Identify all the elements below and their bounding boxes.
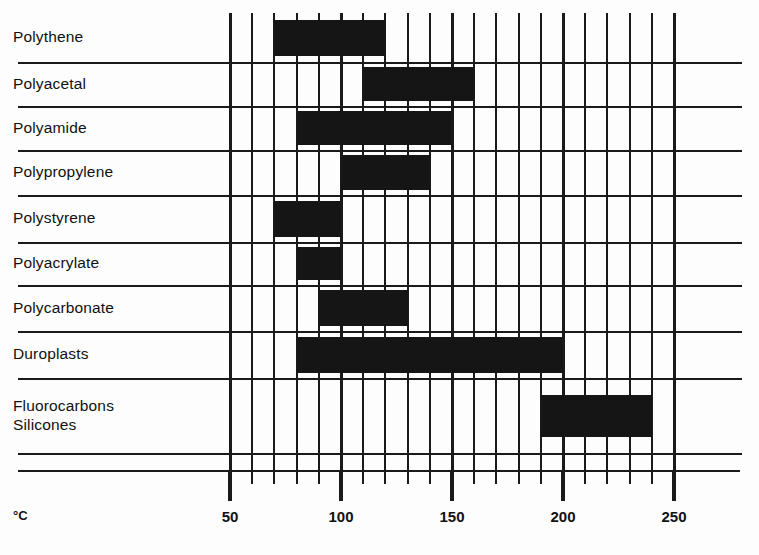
bar-3 xyxy=(297,111,452,145)
tick-90 xyxy=(318,471,320,484)
tick-230 xyxy=(629,471,631,484)
row-separator-2 xyxy=(18,106,742,108)
tick-180 xyxy=(518,471,520,484)
tick-150 xyxy=(450,471,454,501)
tick-label-200: 200 xyxy=(550,508,575,525)
tick-130 xyxy=(407,471,409,484)
tick-110 xyxy=(362,471,364,484)
tick-label-150: 150 xyxy=(439,508,464,525)
row-label-8: Duroplasts xyxy=(13,344,89,363)
bar-8 xyxy=(297,337,563,373)
tick-label-100: 100 xyxy=(328,508,353,525)
row-separator-4 xyxy=(18,195,742,197)
tick-label-50: 50 xyxy=(222,508,239,525)
gridline-50 xyxy=(229,13,232,500)
row-label-9: Fluorocarbons Silicones xyxy=(13,396,114,434)
axis-unit-label: °C xyxy=(13,508,28,523)
temperature-range-chart: PolythenePolyacetalPolyamidePolypropylen… xyxy=(0,0,759,555)
tick-200 xyxy=(561,471,565,501)
tick-170 xyxy=(495,471,497,484)
tick-120 xyxy=(384,471,386,484)
tick-160 xyxy=(473,471,475,484)
row-label-2: Polyacetal xyxy=(13,74,86,93)
tick-240 xyxy=(651,471,653,484)
tick-label-250: 250 xyxy=(661,508,686,525)
tick-140 xyxy=(429,471,431,484)
tick-100 xyxy=(339,471,343,501)
tick-190 xyxy=(540,471,542,484)
row-label-4: Polypropylene xyxy=(13,162,113,181)
row-separator-5 xyxy=(18,242,742,244)
tick-70 xyxy=(273,471,275,484)
row-label-6: Polyacrylate xyxy=(13,253,99,272)
bar-6 xyxy=(297,247,341,280)
row-separator-6 xyxy=(18,285,742,287)
row-label-1: Polythene xyxy=(13,27,83,46)
row-label-3: Polyamide xyxy=(13,118,87,137)
bar-5 xyxy=(274,201,341,237)
row-separator-3 xyxy=(18,150,742,152)
tick-50 xyxy=(228,471,232,501)
bar-2 xyxy=(363,67,474,101)
row-separator-7 xyxy=(18,331,742,333)
row-label-7: Polycarbonate xyxy=(13,298,114,317)
bar-7 xyxy=(319,290,408,326)
row-separator-1 xyxy=(18,62,742,64)
row-label-5: Polystyrene xyxy=(13,208,96,227)
tick-80 xyxy=(296,471,298,484)
tick-250 xyxy=(672,471,676,501)
row-separator-9 xyxy=(18,453,742,455)
tick-60 xyxy=(251,471,253,484)
bar-1 xyxy=(274,20,385,56)
x-axis-line xyxy=(18,470,740,472)
row-separator-8 xyxy=(18,378,742,380)
tick-210 xyxy=(584,471,586,484)
bar-4 xyxy=(341,155,430,190)
tick-220 xyxy=(606,471,608,484)
bar-9 xyxy=(541,395,652,437)
